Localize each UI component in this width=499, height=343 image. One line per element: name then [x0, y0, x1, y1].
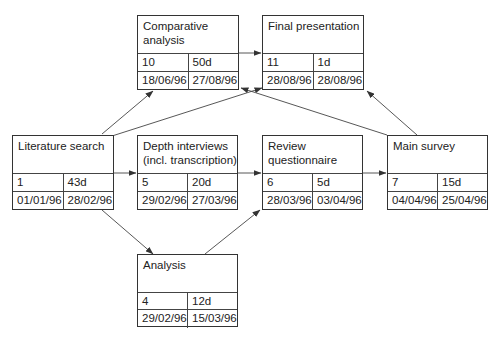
activity-number: 7 — [388, 174, 437, 192]
finish-date: 27/08/96 — [188, 72, 239, 90]
activity-number: 6 — [263, 174, 312, 192]
node-review-questionnaire[interactable]: Review questionnaire 6 5d 28/03/96 03/04… — [262, 135, 363, 210]
activity-duration: 20d — [187, 174, 237, 192]
activity-duration: 1d — [313, 54, 364, 72]
activity-duration: 43d — [63, 174, 114, 192]
start-date: 01/01/96 — [13, 192, 63, 210]
arrow-literature-to-final — [112, 88, 262, 136]
finish-date: 28/08/96 — [313, 72, 364, 90]
finish-date: 25/04/96 — [437, 192, 487, 210]
arrow-main-to-final — [367, 91, 417, 135]
activity-duration: 5d — [312, 174, 362, 192]
activity-duration: 15d — [437, 174, 487, 192]
finish-date: 28/02/96 — [63, 192, 114, 210]
activity-number: 10 — [138, 54, 188, 72]
start-date: 28/08/96 — [263, 72, 313, 90]
finish-date: 27/03/96 — [187, 192, 237, 210]
node-title: Comparative analysis — [138, 16, 238, 47]
node-title: Final presentation — [263, 16, 363, 33]
activity-number: 11 — [263, 54, 313, 72]
activity-number: 4 — [138, 293, 187, 310]
start-date: 04/04/96 — [388, 192, 437, 210]
node-depth-interviews[interactable]: Depth interviews (incl. transcription) 5… — [137, 135, 238, 210]
node-title: Review questionnaire — [263, 136, 362, 167]
node-final-presentation[interactable]: Final presentation 11 1d 28/08/96 28/08/… — [262, 15, 364, 90]
start-date: 29/02/96 — [138, 310, 187, 328]
start-date: 29/02/96 — [138, 192, 187, 210]
node-title: Literature search — [13, 136, 113, 153]
activity-duration: 50d — [188, 54, 239, 72]
activity-number: 1 — [13, 174, 63, 192]
node-comparative-analysis[interactable]: Comparative analysis 10 50d 18/06/96 27/… — [137, 15, 239, 90]
node-literature-search[interactable]: Literature search 1 43d 01/01/96 28/02/9… — [12, 135, 114, 210]
finish-date: 03/04/96 — [312, 192, 362, 210]
arrow-literature-to-comparative — [102, 91, 153, 134]
node-title: Main survey — [388, 136, 487, 153]
node-title: Analysis — [138, 255, 237, 272]
node-main-survey[interactable]: Main survey 7 15d 04/04/96 25/04/96 — [387, 135, 488, 210]
activity-number: 5 — [138, 174, 187, 192]
arrow-analysis-to-review — [205, 210, 260, 254]
node-title: Depth interviews (incl. transcription) — [138, 136, 237, 167]
node-analysis[interactable]: Analysis 4 12d 29/02/96 15/03/96 — [137, 254, 238, 327]
arrow-literature-to-analysis — [102, 210, 153, 254]
finish-date: 15/03/96 — [187, 310, 237, 328]
arrow-main-to-comparative — [241, 88, 387, 135]
activity-duration: 12d — [187, 293, 237, 310]
start-date: 18/06/96 — [138, 72, 188, 90]
start-date: 28/03/96 — [263, 192, 312, 210]
